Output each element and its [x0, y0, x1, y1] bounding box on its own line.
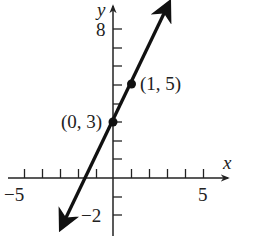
x-tick-label-5: 5 — [198, 184, 208, 205]
y-axis-label: y — [95, 0, 106, 20]
y-tick-label-neg2: −2 — [81, 205, 101, 226]
y-tick-label-8: 8 — [96, 19, 106, 40]
point-label-1-5: (1, 5) — [140, 73, 181, 95]
x-axis-label: x — [222, 152, 232, 173]
point-0-3 — [109, 118, 118, 127]
x-tick-label-neg5: −5 — [4, 184, 24, 205]
point-label-0-3: (0, 3) — [61, 111, 102, 133]
point-1-5 — [127, 80, 136, 89]
graph: y x 8 −2 −5 5 (0, 3) (1, 5) — [0, 0, 264, 251]
x-ticks — [25, 169, 204, 178]
